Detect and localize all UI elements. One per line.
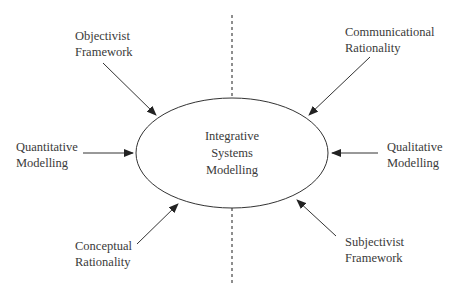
node-line: Quantitative	[16, 139, 78, 155]
node-subjectivist-framework: Subjectivist Framework	[345, 234, 404, 266]
arrow-communicational	[309, 57, 370, 115]
node-line: Qualitative	[387, 139, 443, 155]
node-line: Subjectivist	[345, 234, 404, 250]
center-line-1: Integrative	[182, 128, 282, 145]
node-conceptual-rationality: Conceptual Rationality	[75, 238, 132, 270]
arrow-objectivist	[103, 63, 156, 115]
node-communicational-rationality: Communicational Rationality	[345, 24, 435, 56]
arrow-subjectivist	[297, 200, 336, 236]
node-qualitative-modelling: Qualitative Modelling	[387, 139, 443, 171]
node-line: Conceptual	[75, 238, 132, 254]
node-line: Rationality	[345, 40, 435, 56]
node-line: Modelling	[387, 155, 443, 171]
node-line: Modelling	[16, 155, 78, 171]
node-line: Communicational	[345, 24, 435, 40]
arrow-conceptual	[137, 204, 178, 244]
node-line: Objectivist	[75, 28, 133, 44]
center-line-2: Systems	[182, 145, 282, 162]
node-line: Framework	[75, 44, 133, 60]
node-objectivist-framework: Objectivist Framework	[75, 28, 133, 60]
center-node-label: Integrative Systems Modelling	[182, 128, 282, 179]
node-line: Framework	[345, 250, 404, 266]
diagram-canvas: Integrative Systems Modelling Objectivis…	[0, 0, 454, 296]
node-line: Rationality	[75, 254, 132, 270]
node-quantitative-modelling: Quantitative Modelling	[16, 139, 78, 171]
center-line-3: Modelling	[182, 162, 282, 179]
